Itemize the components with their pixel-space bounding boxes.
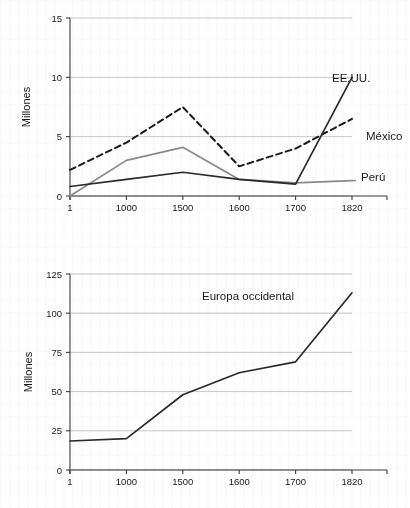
y-tick-label: 75 [51,347,62,358]
y-axis-title: Millones [20,86,32,127]
y-axis-title: Millones [22,351,34,392]
series-line-europaoccidental [70,293,352,441]
y-tick-label: 125 [46,269,62,280]
y-tick-label: 5 [57,131,62,142]
x-tick-label: 1600 [229,476,250,487]
series-label-europa-occidental: Europa occidental [202,290,294,302]
series-label-eeuu: EE.UU. [332,72,370,84]
x-tick-label: 1 [67,202,72,213]
series-label-peru: Perú [361,171,385,183]
x-tick-label: 1600 [229,202,250,213]
y-tick-label: 25 [51,425,62,436]
x-tick-label: 1700 [285,202,306,213]
x-tick-label: 1000 [116,202,137,213]
top-line-chart: 051015Millones110001500160017001820EE.UU… [0,0,410,254]
y-tick-label: 50 [51,386,62,397]
x-tick-label: 1500 [172,476,193,487]
x-tick-label: 1820 [341,476,362,487]
series-line-mxico [70,107,352,170]
series-label-mexico: México [366,130,402,142]
x-tick-label: 1000 [116,476,137,487]
x-tick-label: 1700 [285,476,306,487]
y-tick-label: 10 [51,72,62,83]
top-chart-canvas: 051015Millones110001500160017001820EE.UU… [0,0,410,254]
x-tick-label: 1820 [341,202,362,213]
x-tick-label: 1 [67,476,72,487]
series-line-per [70,147,352,196]
y-tick-label: 100 [46,308,62,319]
y-tick-label: 0 [57,465,62,476]
bottom-chart-canvas: 0255075100125Millones1100015001600170018… [0,254,410,508]
y-tick-label: 15 [51,13,62,24]
bottom-line-chart: 0255075100125Millones1100015001600170018… [0,254,410,508]
y-tick-label: 0 [57,191,62,202]
x-tick-label: 1500 [172,202,193,213]
